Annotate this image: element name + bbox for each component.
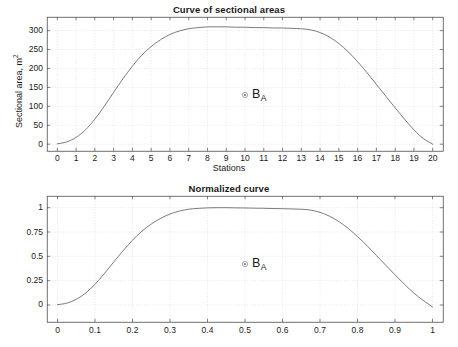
x-tick-label: 1 (419, 325, 447, 335)
y-tick-label: 0 (13, 139, 43, 149)
marker-label-subscript: A (261, 93, 267, 103)
x-tick-label: 0.6 (269, 325, 297, 335)
plot-area-sectional-areas (0, 0, 458, 175)
x-tick-label: 0.4 (194, 325, 222, 335)
x-tick-label: 0.1 (81, 325, 109, 335)
marker-label-main: B (252, 256, 260, 270)
x-tick-label: 0.2 (119, 325, 147, 335)
marker-label-main: B (252, 87, 260, 101)
figure-container: Curve of sectional areas Sectional area,… (0, 0, 458, 347)
plot-area-normalized-curve (0, 172, 458, 347)
x-tick-label: 0.9 (381, 325, 409, 335)
marker-label-ba: BA (252, 257, 266, 270)
y-tick-label: 100 (13, 101, 43, 111)
x-tick-label: 0.8 (344, 325, 372, 335)
x-tick-label: 0.5 (231, 325, 259, 335)
marker-label-ba: BA (252, 88, 266, 101)
x-tick-label: 0 (44, 325, 72, 335)
y-tick-label: 1 (13, 202, 43, 212)
y-tick-label: 50 (13, 120, 43, 130)
y-tick-label: 150 (13, 82, 43, 92)
y-tick-label: 0.5 (13, 251, 43, 261)
y-tick-label: 0 (13, 299, 43, 309)
y-tick-label: 0.75 (13, 227, 43, 237)
x-tick-label: 0.7 (306, 325, 334, 335)
y-tick-label: 300 (13, 25, 43, 35)
y-tick-label: 0.25 (13, 275, 43, 285)
marker-label-subscript: A (261, 262, 267, 272)
y-tick-label: 200 (13, 63, 43, 73)
marker-ba (242, 262, 247, 267)
chart-panel-sectional-areas: Curve of sectional areas Sectional area,… (0, 0, 458, 175)
chart-panel-normalized-curve: Normalized curve BA00.10.20.30.40.50.60.… (0, 172, 458, 347)
x-tick-label: 0.3 (156, 325, 184, 335)
y-tick-label: 250 (13, 44, 43, 54)
x-tick-label: 20 (419, 153, 447, 163)
